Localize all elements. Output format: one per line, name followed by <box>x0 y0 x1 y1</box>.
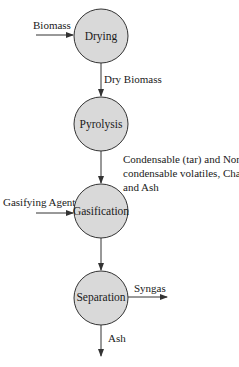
edge-label-volatiles-3: and Ash <box>123 181 159 194</box>
edge-label-ash: Ash <box>108 332 126 345</box>
edge-label-volatiles-1: Condensable (tar) and Non- <box>123 153 239 166</box>
node-label-drying: Drying <box>71 30 131 42</box>
edge-label-biomass: Biomass <box>33 19 71 32</box>
edge-label-volatiles-2: condensable volatiles, Char <box>123 167 239 180</box>
flow-diagram <box>0 0 239 367</box>
node-label-pyrolysis: Pyrolysis <box>71 118 131 130</box>
edge-label-gasifying-agent: Gasifying Agent <box>3 196 75 209</box>
edge-label-syngas: Syngas <box>134 282 166 295</box>
node-label-separation: Separation <box>71 291 131 303</box>
node-label-gasification: Gasification <box>71 205 131 217</box>
edge-label-dry-biomass: Dry Biomass <box>104 73 162 86</box>
